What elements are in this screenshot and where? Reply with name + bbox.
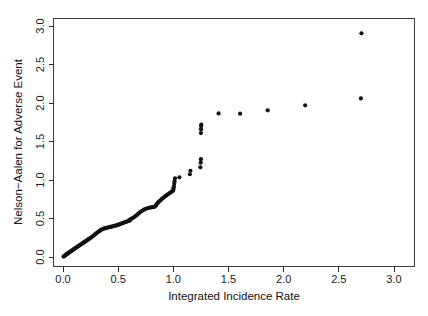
x-tick-label: 2.0	[276, 273, 291, 285]
y-axis-ticks: 0.00.51.01.52.02.53.0	[34, 18, 54, 264]
data-point	[238, 112, 242, 116]
y-axis-title: Nelson−Aalen for Adverse Event	[12, 58, 24, 225]
x-tick-label: 2.5	[331, 273, 346, 285]
data-point	[266, 108, 270, 112]
x-tick-label: 1.0	[166, 273, 181, 285]
x-axis-ticks: 0.00.51.01.52.02.53.0	[55, 267, 401, 286]
y-tick-label: 1.5	[34, 134, 46, 149]
y-tick-label: 1.0	[34, 172, 46, 187]
data-point	[199, 157, 203, 161]
x-axis-title: Integrated Incidence Rate	[168, 290, 300, 302]
data-point	[359, 31, 363, 35]
data-point	[359, 96, 363, 100]
x-tick-label: 1.5	[221, 273, 236, 285]
y-tick-label: 0.5	[34, 211, 46, 226]
scatter-plot: 0.00.51.01.52.02.53.0 0.00.51.01.52.02.5…	[0, 0, 428, 316]
chart-figure: 0.00.51.01.52.02.53.0 0.00.51.01.52.02.5…	[0, 0, 428, 316]
y-tick-label: 2.5	[34, 57, 46, 72]
data-points-layer	[61, 31, 363, 259]
data-point	[188, 169, 192, 173]
y-tick-label: 0.0	[34, 249, 46, 264]
y-tick-label: 2.0	[34, 95, 46, 110]
data-point	[173, 176, 177, 180]
data-point	[303, 103, 307, 107]
x-tick-label: 0.0	[55, 273, 70, 285]
data-point	[199, 131, 203, 135]
data-point	[198, 165, 202, 169]
data-point	[199, 122, 203, 126]
x-tick-label: 0.5	[111, 273, 126, 285]
data-point	[177, 175, 181, 179]
y-tick-label: 3.0	[34, 18, 46, 33]
x-tick-label: 3.0	[386, 273, 401, 285]
data-point	[216, 111, 220, 115]
